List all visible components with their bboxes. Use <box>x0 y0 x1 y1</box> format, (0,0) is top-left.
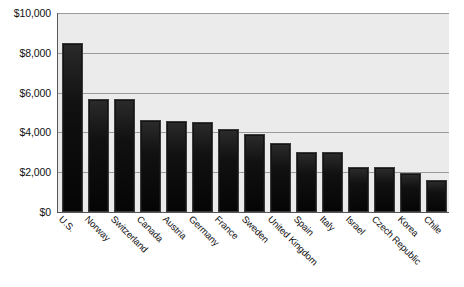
figure-caption <box>6 279 458 287</box>
x-axis-tick-label: Austria <box>161 214 188 241</box>
x-axis-tick-label: Italy <box>318 214 337 233</box>
y-axis-tick-label: $2,000 <box>19 167 51 177</box>
x-axis-labels: U.S.NorwaySwitzerlandCanadaAustriaGerman… <box>57 214 448 287</box>
bar <box>114 99 135 212</box>
bar-chart: $10,000$8,000$6,000$4,000$2,000$0 U.S.No… <box>0 0 464 287</box>
bar <box>270 143 291 212</box>
bar <box>244 134 265 212</box>
bar <box>426 180 447 212</box>
bar <box>62 43 83 212</box>
y-axis: $10,000$8,000$6,000$4,000$2,000$0 <box>0 0 55 287</box>
x-axis-tick-label: Norway <box>83 214 112 243</box>
bar <box>166 121 187 212</box>
y-axis-tick-label: $6,000 <box>19 88 51 98</box>
bar <box>400 173 421 212</box>
bar <box>218 129 239 212</box>
bar <box>192 122 213 212</box>
y-axis-tick-label: $4,000 <box>19 127 51 137</box>
bar <box>348 167 369 212</box>
x-axis-tick-label: Chile <box>422 214 444 236</box>
x-axis-tick-label: Israel <box>344 214 367 237</box>
x-axis-tick-label: U.S. <box>57 214 77 234</box>
y-axis-tick-label: $10,000 <box>14 8 51 18</box>
bars-layer <box>58 13 449 212</box>
bar <box>88 99 109 212</box>
bar <box>374 167 395 212</box>
bar <box>296 152 317 212</box>
plot-area <box>57 13 449 213</box>
bar <box>140 120 161 212</box>
y-axis-tick-label: $8,000 <box>19 48 51 58</box>
bar <box>322 152 343 212</box>
x-axis-tick-label: Sweden <box>239 214 270 245</box>
y-axis-tick-label: $0 <box>40 207 51 217</box>
